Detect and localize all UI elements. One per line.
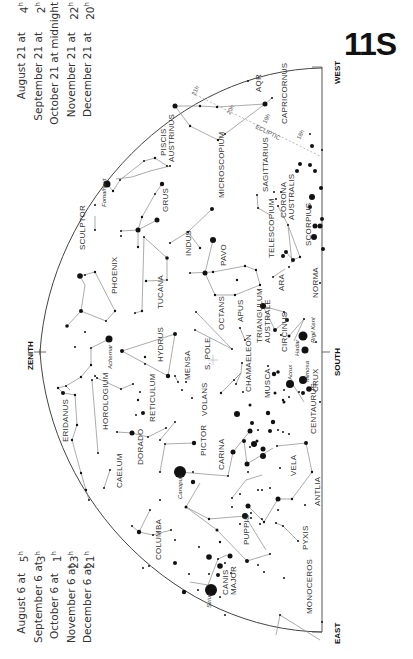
label-mimosa: Mimosa	[304, 360, 310, 382]
label-telescopium: TELESCOPIUM	[267, 198, 276, 258]
label-pyxis: PYXIS	[301, 525, 310, 550]
label-south-pole: S. POLE	[203, 337, 212, 370]
label-pavo: PAVO	[219, 244, 228, 266]
label-tucana: TUCANA	[156, 274, 165, 309]
label-scorpius: SCORPIUS	[304, 203, 313, 246]
label-sculptor: SCULPTOR	[78, 205, 87, 250]
label-puppis: PUPPIS	[242, 514, 251, 545]
direction-zenith: ZENITH	[26, 341, 35, 370]
constellation-labels: AQR CAPRICORNUS PISCIS AUSTRINUS MICROSC…	[61, 63, 322, 614]
label-chamaeleon: CHAMAELEON	[244, 334, 253, 392]
label-centaurus: CENTAURUS	[309, 383, 318, 434]
label-microscopium: MICROSCOPIUM	[217, 131, 226, 198]
svg-text:AUSTRALE: AUSTRALE	[263, 299, 272, 343]
label-hadar: Hadar	[294, 339, 300, 356]
label-capricornus: CAPRICORNUS	[280, 63, 289, 124]
label-carina: CARINA	[217, 438, 226, 470]
label-indus: INDUS	[184, 230, 193, 256]
label-dorado: DORADO	[136, 429, 145, 465]
label-sagittarius: SAGITTARIUS	[261, 137, 270, 192]
direction-east: EAST	[333, 623, 342, 644]
ecliptic-tick-20h: 20h	[226, 104, 236, 116]
svg-text:MAJOR: MAJOR	[229, 566, 238, 595]
svg-text:AUSTRINUS: AUSTRINUS	[167, 114, 176, 162]
label-canopus: Canopus	[177, 475, 183, 499]
label-acrux: Acrux	[287, 364, 293, 381]
label-musca: MUSCA	[263, 368, 272, 398]
ecliptic-tick-19h: 19h	[262, 113, 272, 125]
label-caelum: CAELUM	[115, 453, 124, 488]
ecliptic-tick-21h: 21h	[191, 85, 201, 97]
label-columba: COLUMBA	[154, 519, 163, 560]
label-circinus: CIRCINUS	[280, 312, 289, 352]
label-pictor: PICTOR	[199, 425, 208, 456]
direction-west: WEST	[333, 61, 342, 84]
label-octans: OCTANS	[217, 296, 226, 330]
label-grus: GRUS	[161, 188, 170, 212]
ecliptic-tick-18h: 18h	[296, 129, 306, 141]
label-sirius: Sirius	[206, 593, 212, 608]
label-hydrus: HYDRUS	[156, 327, 165, 362]
label-phoenix: PHOENIX	[110, 256, 119, 294]
label-horologium: HOROLOGIUM	[101, 372, 110, 430]
label-norma: NORMA	[311, 267, 320, 298]
label-rigil-kent: Rigil Kent	[310, 317, 316, 343]
label-reticulum: RETICULUM	[148, 373, 157, 422]
label-achernar: Achernar	[107, 344, 113, 370]
label-antlia: ANTLIA	[313, 476, 322, 506]
label-monoceros: MONOCEROS	[305, 559, 314, 614]
label-fomalhaut: Fomalhaut	[101, 178, 107, 207]
direction-south: SOUTH	[333, 348, 342, 376]
label-apus: APUS	[236, 299, 245, 322]
label-volans: VOLANS	[200, 382, 209, 416]
label-ara: ARA	[277, 273, 286, 291]
label-eridanus: ERIDANUS	[61, 399, 70, 442]
star-chart: 21h 20h 19h 18h ECLIPTIC	[0, 0, 413, 659]
label-vela: VELA	[289, 454, 298, 476]
label-mensa: MENSA	[183, 350, 192, 380]
label-aqr: AQR	[254, 74, 263, 92]
svg-text:AUSTRALIS: AUSTRALIS	[287, 174, 296, 220]
